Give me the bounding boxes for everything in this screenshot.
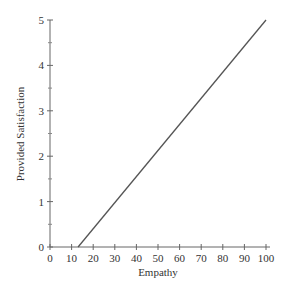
x-tick-label: 50 [153,252,165,264]
series-line [78,20,266,247]
x-tick-label: 100 [258,252,275,264]
y-tick-label: 1 [39,196,45,208]
y-axis: 012345 [39,14,54,253]
x-axis: 0102030405060708090100 [47,244,275,264]
x-tick-label: 70 [196,252,208,264]
x-tick-label: 80 [217,252,229,264]
plot-lines [78,20,266,247]
x-tick-label: 40 [131,252,143,264]
x-tick-label: 20 [88,252,100,264]
x-tick-label: 90 [239,252,251,264]
y-axis-label: Provided Satisfaction [14,86,26,181]
y-tick-label: 3 [39,105,45,117]
y-tick-label: 4 [39,59,45,71]
x-tick-label: 0 [47,252,53,264]
x-tick-label: 10 [66,252,78,264]
y-tick-label: 2 [39,150,45,162]
x-tick-label: 60 [174,252,186,264]
y-tick-label: 5 [39,14,45,26]
chart: 012345 0102030405060708090100 Empathy Pr… [0,0,292,293]
y-tick-label: 0 [39,241,45,253]
x-axis-label: Empathy [138,266,178,278]
x-tick-label: 30 [109,252,121,264]
